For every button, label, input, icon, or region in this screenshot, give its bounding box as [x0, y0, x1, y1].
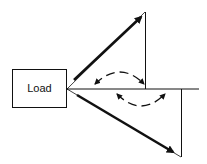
load-box: Load	[13, 70, 67, 108]
lower-angle-arc	[117, 94, 165, 106]
load-label: Load	[27, 82, 51, 94]
phasor-diagram: Load	[0, 0, 207, 164]
lower-phasor-arrow	[77, 95, 173, 152]
upper-angle-arc	[95, 72, 144, 84]
upper-phasor-arrow	[74, 17, 141, 80]
